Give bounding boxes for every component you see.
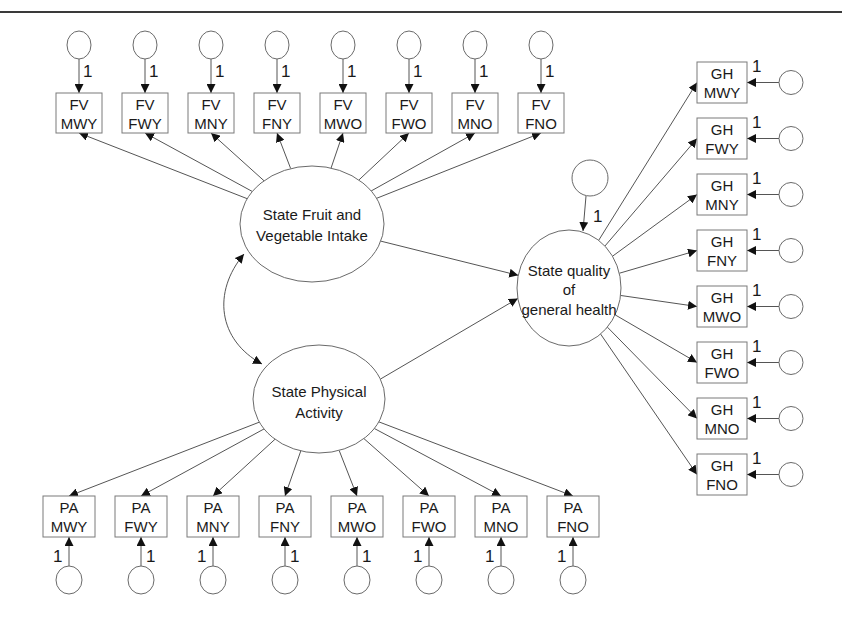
box-label-line2: FNO bbox=[706, 476, 738, 493]
error-weight-label: 1 bbox=[290, 547, 299, 566]
error-circle bbox=[56, 566, 82, 594]
box-label-line1: PA bbox=[564, 499, 583, 516]
gh-indicator-mwy[interactable]: GHMWY1 bbox=[697, 57, 803, 103]
box-label-line1: FV bbox=[531, 96, 550, 113]
box-label-line2: MNO bbox=[705, 420, 740, 437]
latent-label-line2: Activity bbox=[295, 404, 343, 421]
box-label-line1: GH bbox=[711, 289, 734, 306]
disturbance-circle bbox=[572, 160, 608, 196]
loading-path-arrow bbox=[377, 133, 541, 198]
error-weight-label: 1 bbox=[485, 547, 494, 566]
box-label-line2: MNY bbox=[194, 115, 227, 132]
gh-indicator-fny[interactable]: GHFNY1 bbox=[697, 225, 803, 271]
error-weight-label: 1 bbox=[752, 57, 761, 76]
error-weight-label: 1 bbox=[347, 62, 356, 81]
error-weight-label: 1 bbox=[752, 281, 761, 300]
gh-disturbance[interactable]: 1 bbox=[572, 160, 608, 226]
box-label-line1: FV bbox=[333, 96, 352, 113]
error-weight-label: 1 bbox=[197, 547, 206, 566]
loading-path-arrow bbox=[339, 450, 357, 496]
latent-label-line1: State Physical bbox=[271, 383, 366, 400]
box-label-line1: PA bbox=[276, 499, 295, 516]
latent-general-health[interactable]: State quality of general health bbox=[517, 230, 621, 346]
disturbance-weight-label: 1 bbox=[593, 207, 602, 226]
error-circle bbox=[529, 31, 553, 59]
error-circle bbox=[488, 566, 514, 594]
box-label-line2: FNY bbox=[707, 252, 737, 269]
latent-label-line3: general health bbox=[521, 301, 616, 318]
error-circle bbox=[272, 566, 298, 594]
box-label-line2: FWY bbox=[705, 140, 738, 157]
error-weight-label: 1 bbox=[149, 62, 158, 81]
error-circle bbox=[463, 31, 487, 59]
error-weight-label: 1 bbox=[281, 62, 290, 81]
error-circle bbox=[416, 566, 442, 594]
loading-path-arrow bbox=[69, 422, 259, 496]
error-circle bbox=[779, 407, 803, 431]
loading-path-arrow bbox=[621, 295, 697, 306]
box-label-line1: FV bbox=[267, 96, 286, 113]
loading-path-arrow bbox=[364, 439, 429, 496]
error-circle bbox=[344, 566, 370, 594]
fv-indicators: 1FVMWY1FVFWY1FVMNY1FVFNY1FVMWO1FVFWO1FVM… bbox=[56, 31, 564, 133]
error-weight-label: 1 bbox=[479, 62, 488, 81]
latent-physical-activity[interactable]: State Physical Activity bbox=[253, 345, 385, 453]
loading-path-arrow bbox=[615, 315, 697, 363]
paths-layer bbox=[69, 59, 779, 566]
box-label-line1: PA bbox=[132, 499, 151, 516]
box-label-line1: FV bbox=[465, 96, 484, 113]
error-circle bbox=[199, 31, 223, 59]
loading-path-arrow bbox=[371, 133, 475, 191]
error-weight-label: 1 bbox=[215, 62, 224, 81]
loading-path-arrow bbox=[619, 251, 697, 274]
box-label-line2: MWY bbox=[704, 84, 741, 101]
loading-path-arrow bbox=[145, 133, 252, 192]
loading-path-arrow bbox=[141, 429, 264, 496]
error-weight-label: 1 bbox=[752, 449, 761, 468]
loading-path-arrow bbox=[331, 133, 343, 168]
loading-path-arrow bbox=[374, 428, 501, 496]
error-circle bbox=[265, 31, 289, 59]
box-label-line2: MWO bbox=[703, 308, 741, 325]
error-circle bbox=[200, 566, 226, 594]
box-label-line1: GH bbox=[711, 345, 734, 362]
error-weight-label: 1 bbox=[752, 225, 761, 244]
disturbance-path-arrow bbox=[583, 196, 586, 231]
box-label-line2: FWY bbox=[124, 518, 157, 535]
box-label-line2: MWO bbox=[324, 115, 362, 132]
error-circle bbox=[779, 239, 803, 263]
box-label-line2: MNO bbox=[458, 115, 493, 132]
gh-indicator-fwo[interactable]: GHFWO1 bbox=[697, 337, 803, 383]
box-label-line1: GH bbox=[711, 65, 734, 82]
error-weight-label: 1 bbox=[752, 113, 761, 132]
error-circle bbox=[67, 31, 91, 59]
gh-indicator-mny[interactable]: GHMNY1 bbox=[697, 169, 803, 215]
box-label-line2: MWO bbox=[338, 518, 376, 535]
gh-indicator-fwy[interactable]: GHFWY1 bbox=[697, 113, 803, 159]
latent-fruit-vegetable-intake[interactable]: State Fruit and Vegetable Intake bbox=[240, 166, 384, 282]
box-label-line1: GH bbox=[711, 457, 734, 474]
box-label-line2: FWO bbox=[392, 115, 427, 132]
gh-indicator-mno[interactable]: GHMNO1 bbox=[697, 393, 803, 439]
error-circle bbox=[779, 295, 803, 319]
loading-path-arrow bbox=[285, 451, 301, 496]
gh-indicator-mwo[interactable]: GHMWO1 bbox=[697, 281, 803, 327]
loading-path-arrow bbox=[277, 133, 291, 169]
box-label-line2: MWY bbox=[51, 518, 88, 535]
box-label-line2: MNO bbox=[484, 518, 519, 535]
box-label-line1: GH bbox=[711, 177, 734, 194]
regression-fv-to-gh-arrow bbox=[381, 241, 518, 275]
error-weight-label: 1 bbox=[752, 169, 761, 188]
loading-path-arrow bbox=[605, 139, 697, 247]
box-label-line2: FNY bbox=[270, 518, 300, 535]
error-circle bbox=[779, 127, 803, 151]
error-weight-label: 1 bbox=[362, 547, 371, 566]
box-label-line1: FV bbox=[135, 96, 154, 113]
box-label-line1: PA bbox=[204, 499, 223, 516]
error-circle bbox=[133, 31, 157, 59]
error-weight-label: 1 bbox=[413, 547, 422, 566]
error-circle bbox=[560, 566, 586, 594]
gh-indicator-fno[interactable]: GHFNO1 bbox=[697, 449, 803, 495]
regression-pa-to-gh-arrow bbox=[380, 298, 517, 379]
gh-indicators: GHMWY1GHFWY1GHMNY1GHFNY1GHMWO1GHFWO1GHMN… bbox=[697, 57, 803, 495]
